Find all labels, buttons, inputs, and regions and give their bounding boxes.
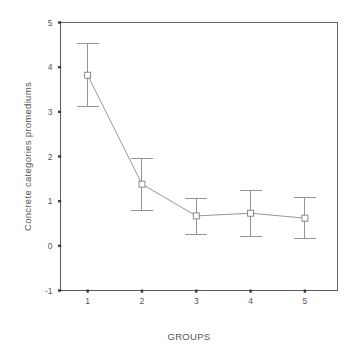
x-axis-title: GROUPS [168, 331, 211, 342]
y-tick-label: 2 [48, 152, 53, 162]
y-tick-mark [58, 289, 61, 291]
y-tick-mark [58, 245, 61, 247]
chart-container: 543210-1 12345 Concrete categories prome… [0, 0, 359, 354]
x-tick-mark [249, 290, 251, 293]
y-tick-label: 0 [48, 241, 53, 251]
data-point-marker [193, 213, 199, 219]
x-tick-mark [304, 290, 306, 293]
y-tick-label: 3 [48, 107, 53, 117]
line-chart-with-error-bars: 543210-1 12345 Concrete categories prome… [0, 0, 359, 354]
y-tick-mark [58, 155, 61, 157]
y-axis-title: Concrete categories promediums [22, 82, 33, 231]
x-tick-label: 2 [140, 296, 145, 306]
data-point-marker [248, 210, 254, 216]
y-tick-label: 5 [48, 18, 53, 28]
y-tick-mark [58, 111, 61, 113]
x-tick-label: 4 [248, 296, 253, 306]
y-tick-mark [58, 200, 61, 202]
data-point-marker [302, 215, 308, 221]
y-tick-label: -1 [45, 286, 53, 296]
x-tick-label: 5 [303, 296, 308, 306]
y-tick-label: 4 [48, 62, 53, 72]
x-tick-mark [86, 290, 88, 293]
y-tick-mark [58, 21, 61, 23]
y-tick-label: 1 [48, 196, 53, 206]
y-tick-mark [58, 66, 61, 68]
data-point-marker [85, 72, 91, 78]
x-tick-label: 3 [194, 296, 199, 306]
x-tick-mark [195, 290, 197, 293]
x-tick-label: 1 [85, 296, 90, 306]
data-point-marker [139, 181, 145, 187]
x-tick-mark [141, 290, 143, 293]
